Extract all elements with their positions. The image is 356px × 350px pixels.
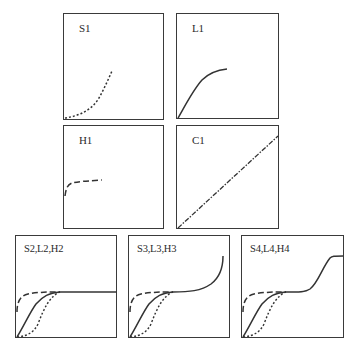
s-curve-dotted — [65, 71, 112, 118]
second-step-curve-solid — [286, 256, 343, 292]
slh4-curve-plot — [242, 236, 345, 339]
s-curve-dotted — [130, 292, 173, 337]
panel-l1: L1 — [176, 13, 279, 119]
slh2-curve-plot — [16, 236, 118, 339]
slh3-curve-plot — [129, 236, 231, 339]
l-curve-solid — [17, 292, 60, 337]
c1-curve-plot — [177, 126, 280, 230]
h-curve-dashed — [65, 180, 102, 196]
s-curve-dotted — [17, 292, 60, 337]
panel-slh4: S4,L4,H4 — [241, 235, 344, 338]
panel-c1: C1 — [176, 125, 279, 229]
s1-curve-plot — [64, 14, 165, 121]
l-curve-solid — [130, 292, 173, 337]
l-curve-solid — [178, 69, 227, 118]
h1-curve-plot — [64, 126, 165, 230]
panel-slh3: S3,L3,H3 — [128, 235, 230, 338]
panel-slh2: S2,L2,H2 — [15, 235, 117, 338]
c-line-dashdot — [178, 136, 278, 228]
upturn-curve-solid — [173, 256, 223, 292]
l-curve-solid — [243, 292, 286, 337]
l1-curve-plot — [177, 14, 280, 120]
panel-s1: S1 — [63, 13, 164, 120]
panel-h1: H1 — [63, 125, 164, 229]
s-curve-dotted — [243, 292, 286, 337]
